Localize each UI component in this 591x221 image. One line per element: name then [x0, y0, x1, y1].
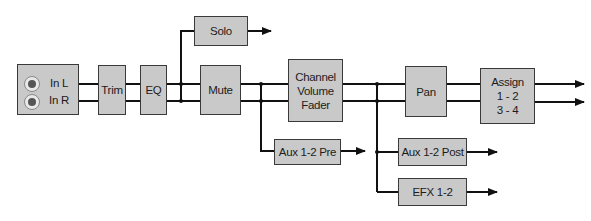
- input-label-right: In R: [49, 94, 69, 106]
- jack-icon: [24, 94, 40, 110]
- pan-block: Pan: [405, 66, 447, 117]
- aux-pre-block: Aux 1-2 Pre: [274, 139, 341, 165]
- eq-block: EQ: [140, 65, 167, 115]
- aux-post-block: Aux 1-2 Post: [398, 138, 467, 166]
- input-label-left: In L: [50, 77, 68, 89]
- assign-block: Assign 1 - 2 3 - 4: [480, 68, 535, 124]
- efx-block: EFX 1-2: [398, 178, 467, 206]
- fader-block: Channel Volume Fader: [288, 59, 343, 122]
- mute-block: Mute: [200, 65, 241, 115]
- solo-block: Solo: [194, 16, 248, 46]
- trim-block: Trim: [98, 65, 126, 115]
- jack-icon: [24, 76, 40, 92]
